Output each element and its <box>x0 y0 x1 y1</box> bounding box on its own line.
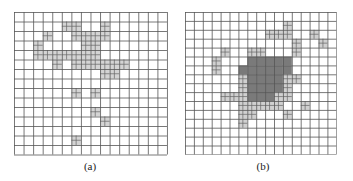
dense-cell <box>265 92 274 101</box>
dense-cell <box>274 65 283 74</box>
dense-cell <box>256 74 265 83</box>
dense-cell <box>247 57 256 66</box>
grid-panel-a <box>14 12 168 156</box>
dense-cell <box>247 65 256 74</box>
grid-panel-b <box>185 12 337 155</box>
dense-cell <box>265 65 274 74</box>
dense-cell <box>265 57 274 66</box>
dense-cell <box>283 57 292 66</box>
dense-cell <box>256 65 265 74</box>
dense-cell <box>256 83 265 92</box>
dense-cell <box>274 83 283 92</box>
dense-cell <box>265 74 274 83</box>
dense-cell <box>247 83 256 92</box>
dense-cell <box>265 83 274 92</box>
caption-a: (a) <box>70 160 110 172</box>
caption-b: (b) <box>243 160 283 172</box>
dense-cell <box>247 74 256 83</box>
dense-cell <box>274 57 283 66</box>
dense-cell <box>283 65 292 74</box>
grid-svg <box>185 12 337 155</box>
dense-cell <box>274 74 283 83</box>
dense-cell <box>238 65 247 74</box>
grid-svg <box>14 12 168 156</box>
dense-cell <box>247 92 256 101</box>
dense-cell <box>256 92 265 101</box>
dense-cell <box>256 57 265 66</box>
